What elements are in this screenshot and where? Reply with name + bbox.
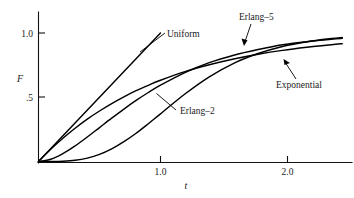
x-tick-label-1.0: 1.0 xyxy=(155,167,167,177)
curve-label-exponential: Exponential xyxy=(276,80,322,90)
figure-cdf-comparison-chart: 1.0 .5 1.0 2.0 F t Uniform Erlang–5 Expo… xyxy=(0,0,354,198)
leader-line-exponential xyxy=(285,62,296,79)
curve-erlang-2 xyxy=(39,38,343,161)
arrowhead-exponential xyxy=(284,59,291,65)
curve-erlang-5 xyxy=(39,38,343,162)
leader-line-erlang-2 xyxy=(157,94,177,111)
arrowhead-erlang-5 xyxy=(242,39,248,47)
curve-label-uniform: Uniform xyxy=(167,29,200,39)
curve-label-erlang-2: Erlang–2 xyxy=(180,106,215,116)
y-tick-label-0.5: .5 xyxy=(26,93,33,103)
chart-canvas: 1.0 .5 1.0 2.0 F t Uniform Erlang–5 Expo… xyxy=(0,0,354,198)
curve-label-erlang-5: Erlang–5 xyxy=(239,12,274,22)
x-axis-title: t xyxy=(185,180,188,191)
x-tick-label-2.0: 2.0 xyxy=(282,167,294,177)
curve-exponential xyxy=(39,44,343,162)
y-tick-label-1.0: 1.0 xyxy=(21,29,33,39)
leader-line-uniform xyxy=(140,33,165,52)
y-axis-title: F xyxy=(16,73,24,84)
